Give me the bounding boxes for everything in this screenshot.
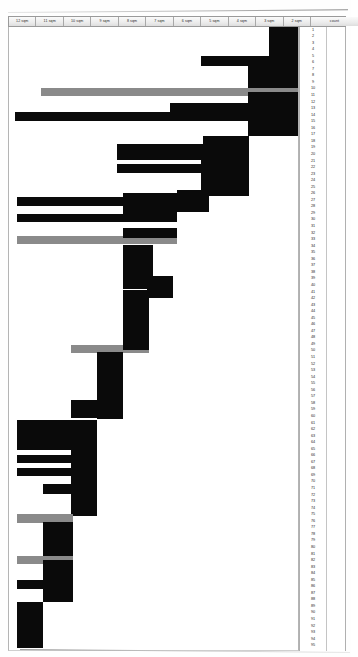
row-index-label: 45 [300,316,326,320]
row-index-label: 52 [300,362,326,366]
row-index-label: 9 [300,80,326,84]
row-index-label: 46 [300,322,326,326]
chart-bar [248,106,299,136]
index-column-divider [326,27,327,651]
row-index-label: 41 [300,290,326,294]
row-index-label: 85 [300,578,326,582]
row-index-label: 66 [300,453,326,457]
row-index-label: 16 [300,126,326,130]
row-index-label: 26 [300,191,326,195]
chart-bar [43,484,73,494]
row-index-label: 62 [300,427,326,431]
row-index-label: 21 [300,159,326,163]
row-index-label: 1 [300,28,326,32]
row-index-label: 48 [300,335,326,339]
row-index-label: 95 [300,643,326,647]
row-index-label: 92 [300,624,326,628]
row-index-label: 40 [300,283,326,287]
column-header-4[interactable]: 9 sqm [91,17,118,26]
column-header-1[interactable]: 12 sqm [9,17,36,26]
row-index-label: 15 [300,119,326,123]
row-index-label: 71 [300,486,326,490]
column-header-3[interactable]: 10 sqm [64,17,91,26]
chart-bar [147,276,173,298]
row-index-label: 18 [300,139,326,143]
row-index-label: 25 [300,185,326,189]
row-index-label: 93 [300,630,326,634]
row-index-label: 79 [300,538,326,542]
chart-bar [41,88,273,96]
column-header-9[interactable]: 4 sqm [229,17,256,26]
row-index-label: 6 [300,60,326,64]
row-index-label: 28 [300,204,326,208]
row-index-label: 65 [300,447,326,451]
row-index-label: 7 [300,67,326,71]
row-index-label: 73 [300,499,326,503]
row-index-label: 60 [300,414,326,418]
row-index-label: 68 [300,466,326,470]
column-header-11[interactable]: 2 sqm [284,17,311,26]
row-index-label: 39 [300,276,326,280]
row-index-label: 72 [300,493,326,497]
row-index-label: 14 [300,113,326,117]
column-header-5[interactable]: 8 sqm [119,17,146,26]
chart-bar [17,580,43,589]
row-index-label: 8 [300,73,326,77]
column-header-count[interactable]: count [311,17,358,26]
row-index-label: 27 [300,198,326,202]
scan-artifact-top-line [8,9,348,13]
row-index-label: 38 [300,270,326,274]
column-header-6[interactable]: 7 sqm [146,17,173,26]
row-index-label: 36 [300,257,326,261]
row-index-label: 76 [300,519,326,523]
row-index-label: 61 [300,421,326,425]
row-index-label: 81 [300,552,326,556]
chart-bar [17,602,43,648]
column-header-7[interactable]: 6 sqm [174,17,201,26]
row-index-label: 49 [300,342,326,346]
chart-bar [17,214,177,222]
row-index-label: 30 [300,217,326,221]
row-index-label: 80 [300,545,326,549]
row-index-label: 64 [300,440,326,444]
row-index-label: 34 [300,244,326,248]
chart-bar [17,468,73,476]
row-index-label: 75 [300,512,326,516]
row-index-label: 42 [300,296,326,300]
row-index-label: 55 [300,381,326,385]
row-index-label: 50 [300,348,326,352]
chart-bar [170,103,250,112]
row-index-label: 10 [300,86,326,90]
row-index-label: 58 [300,401,326,405]
column-header-row: 12 sqm11 sqm10 sqm9 sqm8 sqm7 sqm6 sqm5 … [8,16,346,27]
row-index-label: 43 [300,303,326,307]
row-index-label: 35 [300,250,326,254]
column-header-10[interactable]: 3 sqm [256,17,283,26]
row-index-label: 54 [300,375,326,379]
row-index-label: 20 [300,152,326,156]
row-index-label: 29 [300,211,326,215]
column-header-8[interactable]: 5 sqm [201,17,228,26]
row-index-label: 82 [300,558,326,562]
chart-bar [248,92,299,106]
chart-bar [117,144,203,160]
row-index-label: 13 [300,106,326,110]
row-index-label: 11 [300,93,326,97]
row-index-label: 22 [300,165,326,169]
row-index-label: 59 [300,407,326,411]
row-index-label: 5 [300,54,326,58]
row-index-label: 77 [300,525,326,529]
row-index-label: 69 [300,473,326,477]
row-index-label: 57 [300,394,326,398]
row-index-column: 1234567891011121314151617181920212223242… [299,27,346,651]
row-index-label: 67 [300,460,326,464]
row-index-label: 32 [300,231,326,235]
column-header-2[interactable]: 11 sqm [36,17,63,26]
chart-bar [123,290,149,350]
chart-bar [201,56,299,66]
row-index-label: 70 [300,479,326,483]
row-index-label: 89 [300,604,326,608]
row-index-label: 91 [300,617,326,621]
row-index-label: 90 [300,610,326,614]
